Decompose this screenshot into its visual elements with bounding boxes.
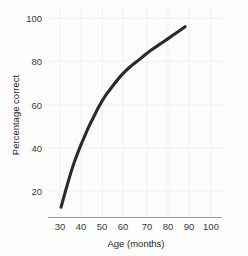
x-tick-label-40: 40 xyxy=(76,221,87,232)
y-axis-tick-labels: 100 80 60 40 20 xyxy=(26,13,42,197)
y-tick-label-100: 100 xyxy=(26,13,42,24)
x-tick-label-50: 50 xyxy=(97,221,108,232)
x-tick-label-80: 80 xyxy=(163,221,174,232)
chart-figure: 100 80 60 40 20 30 40 50 60 70 80 90 100… xyxy=(0,0,248,256)
x-tick-label-100: 100 xyxy=(203,221,219,232)
x-tick-label-90: 90 xyxy=(184,221,195,232)
y-axis-title: Percentage correct xyxy=(10,75,21,156)
x-axis-tick-labels: 30 40 50 60 70 80 90 100 xyxy=(55,221,219,232)
x-tick-label-70: 70 xyxy=(142,221,153,232)
x-axis-title: Age (months) xyxy=(107,238,164,249)
y-tick-label-80: 80 xyxy=(31,56,42,67)
plot-area-background xyxy=(48,8,224,217)
y-tick-label-20: 20 xyxy=(31,186,42,197)
chart-canvas: 100 80 60 40 20 30 40 50 60 70 80 90 100… xyxy=(0,0,248,256)
x-tick-label-60: 60 xyxy=(118,221,129,232)
x-tick-label-30: 30 xyxy=(55,221,66,232)
y-tick-label-60: 60 xyxy=(31,100,42,111)
y-tick-label-40: 40 xyxy=(31,143,42,154)
